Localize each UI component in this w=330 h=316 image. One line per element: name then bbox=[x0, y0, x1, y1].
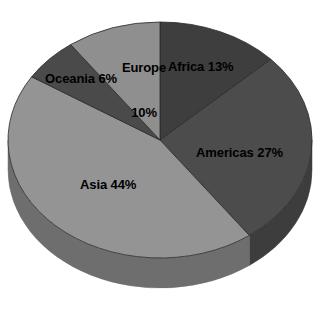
pie-chart-figure: Africa 13% Americas 27% Asia 44% Oceania… bbox=[0, 0, 330, 316]
pie-slice-tops bbox=[8, 22, 312, 258]
pie-chart-canvas bbox=[0, 0, 330, 316]
